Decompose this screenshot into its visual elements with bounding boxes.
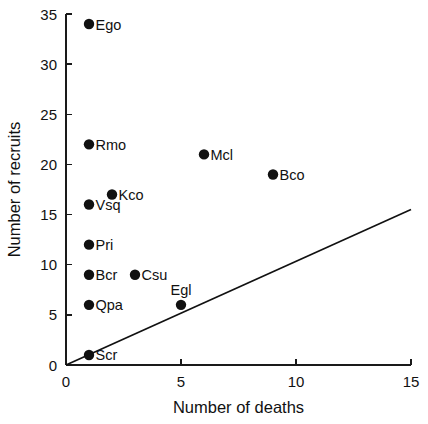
- data-point-marker: [84, 19, 94, 29]
- data-point-label: Kco: [119, 187, 144, 203]
- y-axis-tick-label: 35: [40, 6, 57, 23]
- data-point-label: Bcr: [96, 267, 118, 283]
- data-point: Rmo: [84, 137, 126, 153]
- y-axis-tick-label: 25: [40, 106, 57, 123]
- y-axis-title: Number of recruits: [5, 122, 23, 258]
- data-point-marker: [176, 300, 186, 310]
- y-axis-tick-label: 10: [40, 256, 57, 273]
- data-point-marker: [84, 239, 94, 249]
- x-axis-tick-label: 5: [177, 373, 185, 390]
- regression-line-segment: [66, 210, 411, 365]
- y-axis-tick-label: 0: [49, 357, 57, 374]
- data-point-label: Egl: [171, 282, 192, 298]
- data-point: Egl: [171, 282, 192, 310]
- data-point: Vsq: [84, 197, 121, 213]
- data-point-marker: [84, 350, 94, 360]
- data-point-marker: [268, 169, 278, 179]
- y-axis-tick-label: 30: [40, 56, 57, 73]
- data-point-label: Mcl: [211, 147, 234, 163]
- x-axis-tick-label: 10: [288, 373, 305, 390]
- data-point: Scr: [84, 347, 118, 363]
- y-axis-tick-label: 15: [40, 206, 57, 223]
- scatter-plot-figure: 05101520253035051015 EgoRmoMclBcoKcoVsqP…: [0, 0, 428, 424]
- data-point-label: Pri: [96, 237, 114, 253]
- x-axis-tick-label: 15: [403, 373, 420, 390]
- data-point-label: Scr: [96, 347, 118, 363]
- data-point-marker: [84, 270, 94, 280]
- data-point-marker: [199, 149, 209, 159]
- data-point-label: Bco: [280, 167, 305, 183]
- data-point: Mcl: [199, 147, 233, 163]
- data-point: Csu: [130, 267, 167, 283]
- x-axis-tick-label: 0: [62, 373, 70, 390]
- data-point-label: Csu: [142, 267, 168, 283]
- data-point-label: Vsq: [96, 197, 121, 213]
- y-axis-tick-label: 20: [40, 156, 57, 173]
- y-axis-tick-label: 5: [49, 306, 57, 323]
- data-point-marker: [84, 300, 94, 310]
- data-point: Bco: [268, 167, 305, 183]
- data-point: Pri: [84, 237, 113, 253]
- data-point-label: Qpa: [96, 297, 124, 313]
- data-point: Bcr: [84, 267, 118, 283]
- data-point-marker: [84, 139, 94, 149]
- data-point: Qpa: [84, 297, 124, 313]
- plot-canvas: 05101520253035051015 EgoRmoMclBcoKcoVsqP…: [0, 0, 428, 424]
- data-point-marker: [130, 270, 140, 280]
- data-point: Ego: [84, 17, 122, 33]
- data-point-marker: [84, 199, 94, 209]
- data-point-label: Ego: [96, 17, 122, 33]
- data-points-group: EgoRmoMclBcoKcoVsqPriBcrCsuQpaEglScr: [84, 17, 305, 364]
- x-axis-title: Number of deaths: [173, 398, 304, 416]
- regression-line-group: [66, 210, 411, 365]
- data-point-label: Rmo: [96, 137, 127, 153]
